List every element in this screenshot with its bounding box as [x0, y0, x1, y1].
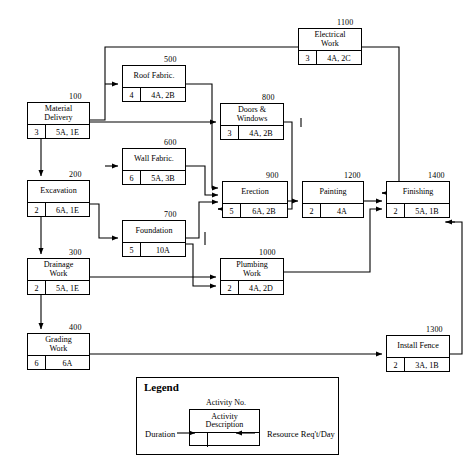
activity-node-1200[interactable]: Painting24A	[302, 181, 364, 218]
activity-duration-500: 4	[123, 88, 141, 102]
activity-title-line1-1200: Painting	[320, 188, 347, 196]
activity-title-line1-1300: Install Fence	[397, 342, 439, 350]
activity-title-100: MaterialDelivery	[28, 103, 89, 124]
activity-row-200: 26A, 1E	[28, 202, 89, 217]
activity-title-line2-1000: Work	[243, 270, 261, 278]
activity-row-600: 65A, 3B	[123, 170, 185, 185]
activity-title-line1-1400: Finishing	[403, 188, 434, 196]
activity-duration-1400: 2	[387, 204, 405, 218]
activity-node-700[interactable]: Foundation510A	[122, 220, 186, 257]
activity-title-line2-300: Work	[50, 270, 68, 278]
activity-number-400: 400	[69, 323, 82, 332]
activity-title-300: DrainageWork	[28, 259, 89, 280]
activity-node-100[interactable]: MaterialDelivery35A, 1E	[27, 102, 90, 139]
activity-resource-700: 10A	[141, 243, 185, 257]
activity-duration-400: 6	[28, 356, 46, 370]
activity-number-800: 800	[262, 93, 275, 102]
edge-200-to-700	[90, 204, 118, 238]
activity-number-900: 900	[266, 171, 279, 180]
activity-resource-1400: 5A, 1B	[405, 204, 449, 218]
activity-row-1200: 24A	[303, 203, 363, 218]
activity-duration-1000: 2	[221, 281, 239, 295]
activity-node-800[interactable]: Doors &Windows34A, 2B	[220, 103, 284, 140]
activity-node-1100[interactable]: ElectricalWork34A, 2C	[298, 28, 362, 65]
edge-1000-to-1400	[284, 209, 382, 272]
activity-resource-400: 6A	[46, 356, 89, 370]
activity-number-1400: 1400	[428, 171, 445, 180]
activity-title-line1-900: Erection	[241, 188, 268, 196]
activity-row-400: 66A	[28, 355, 89, 370]
activity-number-1000: 1000	[259, 248, 276, 257]
legend-arrows	[137, 378, 340, 456]
edge-500-to-900	[186, 84, 218, 188]
activity-title-1200: Painting	[303, 182, 363, 203]
activity-row-300: 25A, 1E	[28, 280, 89, 295]
activity-node-200[interactable]: Excavation26A, 1E	[27, 180, 90, 217]
activity-title-600: Wall Fabric.	[123, 149, 185, 170]
activity-row-100: 35A, 1E	[28, 124, 89, 139]
activity-resource-200: 6A, 1E	[46, 203, 89, 217]
activity-title-1000: PlumbingWork	[221, 259, 283, 280]
activity-resource-300: 5A, 1E	[46, 281, 89, 295]
activity-number-300: 300	[69, 248, 82, 257]
activity-number-500: 500	[164, 55, 177, 64]
activity-title-1100: ElectricalWork	[299, 29, 361, 50]
activity-row-1400: 25A, 1B	[387, 203, 449, 218]
activity-resource-900: 6A, 2B	[241, 204, 287, 218]
edge-700-to-1000	[186, 244, 216, 286]
activity-duration-100: 3	[28, 125, 46, 139]
activity-row-1100: 34A, 2C	[299, 50, 361, 65]
activity-duration-900: 5	[223, 204, 241, 218]
activity-resource-600: 5A, 3B	[141, 171, 185, 185]
activity-duration-800: 3	[221, 126, 239, 140]
activity-title-line2-800: Windows	[237, 115, 268, 123]
activity-number-1200: 1200	[344, 171, 361, 180]
activity-number-600: 600	[164, 138, 177, 147]
activity-resource-1000: 4A, 2D	[239, 281, 283, 295]
activity-title-line2-1100: Work	[321, 40, 339, 48]
activity-title-400: GradingWork	[28, 334, 89, 355]
activity-duration-1200: 2	[303, 204, 321, 218]
activity-duration-600: 6	[123, 171, 141, 185]
activity-number-200: 200	[69, 170, 82, 179]
activity-row-1300: 23A, 1B	[387, 357, 449, 372]
activity-node-1000[interactable]: PlumbingWork24A, 2D	[220, 258, 284, 295]
activity-title-line2-100: Delivery	[44, 114, 72, 122]
activity-node-900[interactable]: Erection56A, 2B	[222, 181, 288, 218]
activity-row-800: 34A, 2B	[221, 125, 283, 140]
activity-title-900: Erection	[223, 182, 287, 203]
activity-title-line2-400: Work	[50, 345, 68, 353]
activity-node-300[interactable]: DrainageWork25A, 1E	[27, 258, 90, 295]
activity-title-line1-200: Excavation	[40, 187, 76, 195]
activity-number-100: 100	[69, 92, 82, 101]
edge-1100-to-1400-route	[362, 47, 399, 193]
activity-row-700: 510A	[123, 242, 185, 257]
activity-node-400[interactable]: GradingWork66A	[27, 333, 90, 370]
activity-title-800: Doors &Windows	[221, 104, 283, 125]
edge-600-to-900	[186, 166, 218, 195]
activity-resource-100: 5A, 1E	[46, 125, 89, 139]
activity-title-line1-600: Wall Fabric.	[134, 155, 174, 163]
activity-title-1400: Finishing	[387, 182, 449, 203]
activity-number-700: 700	[164, 210, 177, 219]
activity-node-600[interactable]: Wall Fabric.65A, 3B	[122, 148, 186, 185]
activity-duration-300: 2	[28, 281, 46, 295]
activity-node-1400[interactable]: Finishing25A, 1B	[386, 181, 450, 218]
activity-duration-700: 5	[123, 243, 141, 257]
activity-number-1100: 1100	[337, 18, 354, 27]
activity-resource-1200: 4A	[321, 204, 363, 218]
activity-row-1000: 24A, 2D	[221, 280, 283, 295]
edge-700-to-900	[186, 202, 218, 238]
activity-node-500[interactable]: Roof Fabric.44A, 2B	[122, 65, 186, 102]
activity-node-1300[interactable]: Install Fence23A, 1B	[386, 335, 450, 372]
activity-duration-200: 2	[28, 203, 46, 217]
legend-panel: Legend Activity No. Activity Description…	[136, 377, 339, 455]
activity-title-200: Excavation	[28, 181, 89, 202]
activity-resource-1300: 3A, 1B	[405, 358, 449, 372]
activity-row-500: 44A, 2B	[123, 87, 185, 102]
activity-title-line1-500: Roof Fabric.	[134, 72, 175, 80]
activity-title-700: Foundation	[123, 221, 185, 242]
activity-resource-800: 4A, 2B	[239, 126, 283, 140]
activity-title-line1-700: Foundation	[136, 227, 173, 235]
activity-resource-500: 4A, 2B	[141, 88, 185, 102]
